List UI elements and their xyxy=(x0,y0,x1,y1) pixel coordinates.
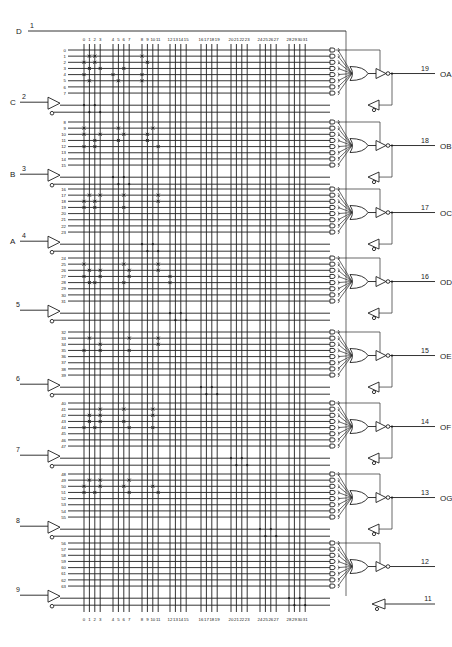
product-term-label: 19 xyxy=(61,205,66,210)
column-label-top: 11 xyxy=(156,37,161,42)
product-term-label: 26 xyxy=(61,268,66,273)
product-term-label: 30 xyxy=(61,293,66,298)
column-label-top: 4 xyxy=(112,37,115,42)
column-label-bottom: 3 xyxy=(99,617,102,622)
product-term-label: 17 xyxy=(61,193,66,198)
input-label: A xyxy=(10,237,16,246)
product-term-label: 20 xyxy=(61,211,66,216)
product-term-label: 12 xyxy=(61,144,66,149)
product-term-label: 9 xyxy=(64,126,67,131)
input-pin-number: 2 xyxy=(22,93,26,100)
product-term-label: 13 xyxy=(61,150,66,155)
product-term-label: 42 xyxy=(61,413,66,418)
product-term-label: 40 xyxy=(61,401,66,406)
product-term-label: 62 xyxy=(61,578,66,583)
input-pin-number: 6 xyxy=(16,375,20,382)
input-label: C xyxy=(10,98,16,107)
product-term-label: 44 xyxy=(61,425,66,430)
product-term-label: 11 xyxy=(62,138,67,143)
output-label: OE xyxy=(440,352,452,361)
product-term-label: 24 xyxy=(61,256,66,261)
product-term-label: 59 xyxy=(61,559,66,564)
product-term-label: 14 xyxy=(61,157,66,162)
product-term-label: 25 xyxy=(61,262,66,267)
product-term-label: 43 xyxy=(61,419,66,424)
column-label-bottom: 31 xyxy=(303,617,308,622)
column-label-bottom: 0 xyxy=(83,617,86,622)
product-term-label: 4 xyxy=(64,72,67,77)
column-label-top: 23 xyxy=(245,37,250,42)
output-label: OB xyxy=(440,142,452,151)
product-term-label: 51 xyxy=(61,490,66,495)
output-pin-number: 18 xyxy=(421,137,429,144)
column-label-top: 1 xyxy=(88,37,91,42)
output-pin-number: 17 xyxy=(421,204,429,211)
product-term-label: 50 xyxy=(61,484,66,489)
product-term-label: 37 xyxy=(61,360,66,365)
product-term-label: 61 xyxy=(61,571,66,576)
output-label: OF xyxy=(440,423,451,432)
column-label-bottom: 9 xyxy=(146,617,149,622)
product-term-label: 39 xyxy=(61,373,66,378)
product-term-label: 48 xyxy=(61,472,66,477)
product-term-label: 41 xyxy=(61,407,66,412)
product-term-label: 38 xyxy=(61,367,66,372)
product-term-label: 1 xyxy=(64,54,67,59)
product-term-label: 5 xyxy=(64,78,67,83)
product-term-label: 45 xyxy=(61,431,66,436)
product-term-label: 23 xyxy=(61,230,66,235)
output-pin-number: 12 xyxy=(421,558,429,565)
product-term-label: 2 xyxy=(64,60,67,65)
product-term-label: 21 xyxy=(61,217,66,222)
product-term-label: 63 xyxy=(61,584,66,589)
output-label: OD xyxy=(440,278,452,287)
column-label-bottom: 27 xyxy=(274,617,279,622)
output-pin-number: 15 xyxy=(421,347,429,354)
column-label-bottom: 11 xyxy=(156,617,161,622)
column-label-top: 3 xyxy=(99,37,102,42)
column-label-top: 8 xyxy=(141,37,144,42)
output-label: OG xyxy=(440,494,452,503)
column-label-bottom: 19 xyxy=(215,617,220,622)
product-term-label: 57 xyxy=(61,547,66,552)
product-term-label: 34 xyxy=(61,342,66,347)
product-term-label: 52 xyxy=(61,496,66,501)
column-label-top: 15 xyxy=(184,37,189,42)
column-label-bottom: 1 xyxy=(88,617,91,622)
input-pin-number: 3 xyxy=(22,165,26,172)
column-label-top: 6 xyxy=(123,37,126,42)
product-term-label: 16 xyxy=(61,187,66,192)
column-label-bottom: 7 xyxy=(128,617,131,622)
product-term-label: 8 xyxy=(64,120,67,125)
product-term-label: 58 xyxy=(61,553,66,558)
product-term-label: 54 xyxy=(61,509,66,514)
column-label-bottom: 4 xyxy=(112,617,115,622)
product-term-label: 7 xyxy=(64,91,67,96)
product-term-label: 46 xyxy=(61,438,66,443)
output-label: OC xyxy=(440,209,452,218)
product-term-label: 15 xyxy=(61,163,66,168)
input-pin-number: 5 xyxy=(16,301,20,308)
output-pin-number: 14 xyxy=(421,418,429,425)
output-pin-number: 13 xyxy=(421,489,429,496)
product-term-label: 56 xyxy=(61,541,66,546)
product-term-label: 31 xyxy=(61,299,66,304)
column-label-top: 9 xyxy=(146,37,149,42)
product-term-label: 29 xyxy=(61,286,66,291)
product-term-label: 60 xyxy=(61,565,66,570)
column-label-top: 0 xyxy=(83,37,86,42)
input-pin-number: 9 xyxy=(16,586,20,593)
input-pin-number: 4 xyxy=(22,232,26,239)
column-label-bottom: 6 xyxy=(123,617,126,622)
column-label-top: 27 xyxy=(274,37,279,42)
product-term-label: 47 xyxy=(61,444,66,449)
column-label-bottom: 5 xyxy=(117,617,120,622)
and-array-grid xyxy=(28,31,346,612)
product-term-label: 55 xyxy=(61,515,66,520)
input-pin-number: 11 xyxy=(424,595,431,602)
column-label-bottom: 8 xyxy=(141,617,144,622)
global-input-label: D xyxy=(16,27,22,36)
column-label-top: 2 xyxy=(94,37,97,42)
column-label-top: 19 xyxy=(215,37,220,42)
column-label-top: 31 xyxy=(303,37,308,42)
